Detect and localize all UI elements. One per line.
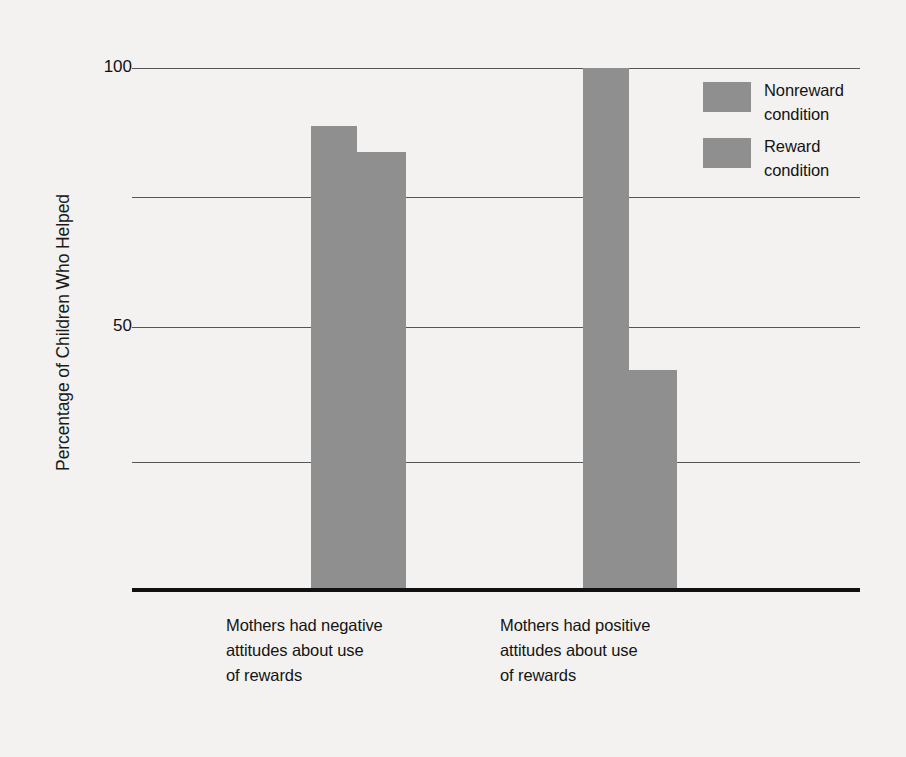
bar-chart-figure: Percentage of Children Who Helped 100 50… [0,0,906,757]
bar-nonreward-negative [311,126,357,590]
legend-label-reward: Reward condition [764,134,829,182]
bar-nonreward-positive [583,68,629,590]
y-tick-label-100: 100 [88,57,132,77]
bar-reward-positive [629,370,677,590]
bar-reward-negative [357,152,406,590]
y-tick-label-50: 50 [88,316,132,336]
legend-swatch-nonreward [703,82,751,112]
x-axis-group-label-negative: Mothers had negative attitudes about use… [226,613,476,688]
x-axis-group-label-positive: Mothers had positive attitudes about use… [500,613,750,688]
gridline-25 [132,462,860,463]
y-axis-title: Percentage of Children Who Helped [53,113,74,553]
gridline-50 [132,327,860,328]
legend-label-nonreward: Nonreward condition [764,78,844,126]
gridline-75 [132,197,860,198]
legend-swatch-reward [703,138,751,168]
gridline-100 [132,68,860,69]
x-axis-line [132,588,860,592]
